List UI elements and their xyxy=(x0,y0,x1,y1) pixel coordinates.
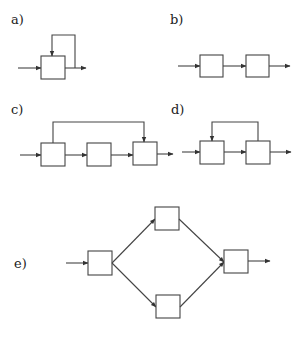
merge-lower-arrow xyxy=(180,262,224,307)
panel-label-d: d) xyxy=(171,102,184,117)
panel-c: c) xyxy=(11,102,173,166)
split-block xyxy=(88,251,112,275)
block-3 xyxy=(133,142,157,165)
panel-label-c: c) xyxy=(11,102,23,117)
block-1 xyxy=(200,55,223,77)
branch-upper-arrow xyxy=(112,219,155,263)
block-1 xyxy=(200,141,224,164)
merge-block xyxy=(224,250,248,273)
merge-upper-arrow xyxy=(179,219,224,262)
upper-block xyxy=(155,207,179,230)
panel-b: b) xyxy=(170,12,290,77)
block-2 xyxy=(87,143,111,166)
branch-lower-arrow xyxy=(112,263,156,307)
block xyxy=(41,56,65,79)
panel-label-e: e) xyxy=(14,256,27,271)
panel-a: a) xyxy=(11,12,86,79)
panel-d: d) xyxy=(171,102,291,164)
panel-label-b: b) xyxy=(170,12,183,27)
block-2 xyxy=(246,55,269,77)
panel-label-a: a) xyxy=(11,12,24,27)
block-2 xyxy=(246,141,270,164)
lower-block xyxy=(156,295,180,318)
block-diagram-figure: a) b) c) d) e) xyxy=(0,0,308,340)
feedforward-arrow xyxy=(53,122,144,143)
block-1 xyxy=(41,143,65,166)
feedback-arrow xyxy=(212,122,258,141)
panel-e: e) xyxy=(14,207,270,318)
